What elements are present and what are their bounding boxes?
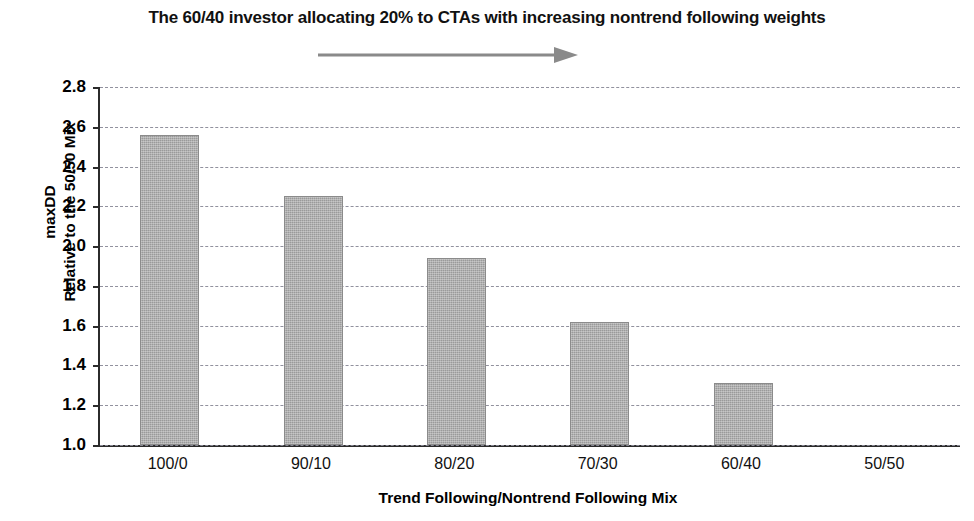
y-axis-tick-label: 2.2: [40, 196, 86, 216]
y-axis-tick: [93, 246, 100, 248]
y-axis-tick-label: 1.4: [40, 355, 86, 375]
x-axis-title: Trend Following/Nontrend Following Mix: [98, 489, 958, 507]
gridline: [100, 246, 960, 247]
y-axis-tick: [93, 127, 100, 129]
y-axis-tick: [93, 445, 100, 447]
y-axis-tick-label: 2.6: [40, 117, 86, 137]
y-axis-tick-label: 1.0: [40, 435, 86, 455]
y-axis-tick: [93, 206, 100, 208]
y-axis-tick-label: 2.0: [40, 236, 86, 256]
bar[interactable]: [570, 322, 629, 445]
x-axis-tick-label: 80/20: [394, 455, 514, 473]
gridline: [100, 405, 960, 406]
plot-area: [98, 87, 960, 447]
x-axis-tick-label: 100/0: [108, 455, 228, 473]
bar[interactable]: [427, 258, 486, 445]
gridline: [100, 127, 960, 128]
y-axis-tick: [93, 365, 100, 367]
y-axis-tick: [93, 167, 100, 169]
x-axis-tick-label: 90/10: [251, 455, 371, 473]
chart-title: The 60/40 investor allocating 20% to CTA…: [0, 8, 974, 28]
y-axis-tick-label: 2.4: [40, 157, 86, 177]
y-axis-tick-label: 1.2: [40, 395, 86, 415]
bar[interactable]: [714, 383, 773, 445]
gridline: [100, 206, 960, 207]
gridline: [100, 445, 960, 446]
gridline: [100, 87, 960, 88]
y-axis-tick: [93, 405, 100, 407]
x-axis-tick-label: 50/50: [824, 455, 944, 473]
bar[interactable]: [284, 196, 343, 445]
rightward-arrow-icon: [316, 44, 580, 66]
y-axis-tick-label: 2.8: [40, 77, 86, 97]
y-axis-tick: [93, 87, 100, 89]
y-axis-tick: [93, 326, 100, 328]
x-axis-tick-label: 60/40: [681, 455, 801, 473]
gridline: [100, 167, 960, 168]
bar[interactable]: [140, 135, 199, 445]
gridline: [100, 286, 960, 287]
x-axis-tick-label: 70/30: [538, 455, 658, 473]
gridline: [100, 365, 960, 366]
gridline: [100, 326, 960, 327]
y-axis-tick: [93, 286, 100, 288]
y-axis-tick-label: 1.8: [40, 276, 86, 296]
y-axis-tick-label: 1.6: [40, 316, 86, 336]
